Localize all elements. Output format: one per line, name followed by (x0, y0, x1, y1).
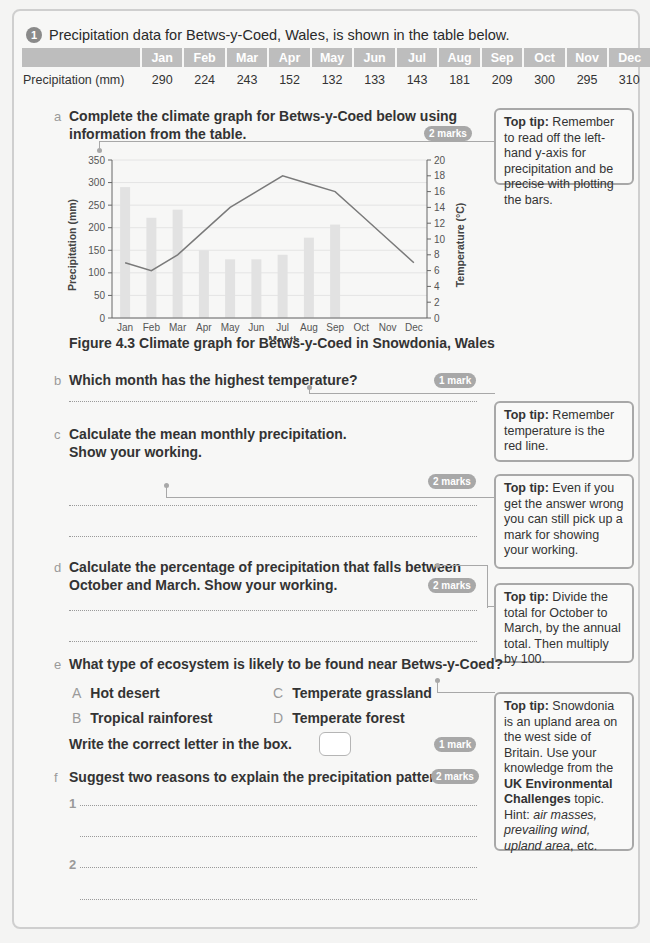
option-label: Temperate forest (292, 710, 405, 726)
table-header-cell: Oct (523, 48, 565, 67)
table-cell: 181 (438, 67, 481, 93)
table-cell: 310 (608, 67, 650, 93)
svg-text:Mar: Mar (169, 322, 187, 333)
tip-connector (166, 485, 495, 498)
svg-text:18: 18 (434, 170, 446, 181)
answer-line[interactable] (69, 401, 477, 402)
part-a-question: Complete the climate graph for Betws-y-C… (69, 107, 457, 143)
option-letter: A (72, 685, 81, 701)
table-row-label: Precipitation (mm) (22, 67, 141, 93)
connector-dot (435, 563, 440, 568)
tip-connector (309, 387, 495, 394)
table-cell: 132 (311, 67, 354, 93)
table-header-cell: Dec (608, 48, 650, 67)
part-e-question: What type of ecosystem is likely to be f… (69, 655, 503, 673)
part-d-line2: October and March. Show your working. (69, 576, 461, 594)
tip-label: Top tip: (504, 408, 549, 422)
tip-text: , etc. (570, 839, 597, 853)
svg-text:0: 0 (434, 313, 440, 324)
svg-text:350: 350 (88, 155, 105, 166)
climate-graph: 05010015020025030035002468101214161820Ja… (62, 150, 482, 340)
svg-text:16: 16 (434, 186, 446, 197)
part-f-bold: two (128, 769, 152, 785)
figure-caption: Figure 4.3 Climate graph for Betws-y-Coe… (69, 335, 495, 351)
table-header-cell: Sep (481, 48, 524, 67)
precipitation-bar (251, 259, 261, 318)
part-f-text: Suggest (69, 769, 128, 785)
answer-line[interactable] (80, 836, 477, 837)
svg-text:4: 4 (434, 281, 440, 292)
part-letter: a (54, 109, 61, 124)
part-f-question: Suggest two reasons to explain the preci… (69, 768, 447, 786)
tip-connector (437, 680, 495, 693)
table-cell: 209 (481, 67, 524, 93)
top-tip-e: Top tip: Snowdonia is an upland area on … (494, 692, 634, 851)
svg-text:20: 20 (434, 155, 446, 166)
table-header-cell: May (311, 48, 354, 67)
svg-text:Aug: Aug (300, 322, 318, 333)
svg-text:200: 200 (88, 222, 105, 233)
connector-dot (164, 483, 169, 488)
svg-text:Feb: Feb (143, 322, 161, 333)
option-b: BTropical rainforest (72, 710, 213, 726)
part-letter: f (54, 770, 58, 785)
precipitation-table: Jan Feb Mar Apr May Jun Jul Aug Sep Oct … (22, 48, 650, 93)
svg-text:Apr: Apr (196, 322, 212, 333)
table-header-row: Jan Feb Mar Apr May Jun Jul Aug Sep Oct … (22, 48, 650, 67)
table-cell: 295 (566, 67, 609, 93)
part-c-question: Calculate the mean monthly precipitation… (69, 425, 347, 461)
option-letter: D (273, 710, 283, 726)
part-letter: b (54, 373, 61, 388)
answer-line[interactable] (69, 610, 477, 611)
part-d-line1: Calculate the percentage of precipitatio… (69, 558, 461, 576)
connector-dot (307, 385, 312, 390)
tip-label: Top tip: (504, 699, 549, 713)
answer-line[interactable] (69, 641, 477, 642)
table-cell: 224 (183, 67, 225, 93)
tip-label: Top tip: (504, 115, 549, 129)
option-a: AHot desert (72, 685, 160, 701)
svg-text:6: 6 (434, 265, 440, 276)
table-cell: 133 (353, 67, 395, 93)
precipitation-bar (173, 210, 183, 318)
table-header-cell: Jun (353, 48, 395, 67)
question-number-badge: 1 (26, 27, 42, 43)
precipitation-bar (304, 238, 314, 318)
answer-line[interactable] (80, 867, 477, 868)
svg-text:300: 300 (88, 177, 105, 188)
part-c-line1: Calculate the mean monthly precipitation… (69, 425, 347, 443)
precipitation-bar (278, 255, 288, 318)
marks-badge: 2 marks (424, 126, 472, 141)
table-cell: 152 (268, 67, 310, 93)
answer-line[interactable] (69, 505, 477, 506)
answer-line[interactable] (80, 805, 477, 806)
tip-label: Top tip: (504, 590, 549, 604)
answer-line[interactable] (80, 899, 477, 900)
part-letter: d (54, 560, 61, 575)
marks-badge: 2 marks (431, 769, 479, 784)
svg-text:250: 250 (88, 200, 105, 211)
part-e-instruction: Write the correct letter in the box. (69, 735, 292, 753)
svg-text:100: 100 (88, 267, 105, 278)
tip-label: Top tip: (504, 481, 549, 495)
answer-letter-box[interactable] (319, 732, 351, 756)
svg-text:50: 50 (94, 290, 106, 301)
precipitation-bar (199, 250, 209, 318)
part-f-text: reasons to explain the precipitation pat… (152, 769, 447, 785)
table-header-cell: Apr (268, 48, 310, 67)
marks-badge: 1 mark (434, 373, 476, 388)
svg-text:14: 14 (434, 202, 446, 213)
svg-text:Jul: Jul (276, 322, 289, 333)
svg-text:Oct: Oct (354, 322, 370, 333)
table-header-cell: Aug (438, 48, 481, 67)
question-intro: Precipitation data for Betws-y-Coed, Wal… (49, 27, 509, 43)
part-a-line1: Complete the climate graph for Betws-y-C… (69, 107, 457, 125)
marks-badge: 1 mark (434, 737, 476, 752)
question-header: 1 Precipitation data for Betws-y-Coed, W… (26, 27, 509, 43)
option-c: CTemperate grassland (273, 685, 432, 701)
svg-text:Jun: Jun (248, 322, 264, 333)
svg-text:8: 8 (434, 249, 440, 260)
tip-connector (437, 565, 488, 608)
answer-line[interactable] (69, 536, 477, 537)
part-c-line2: Show your working. (69, 443, 347, 461)
